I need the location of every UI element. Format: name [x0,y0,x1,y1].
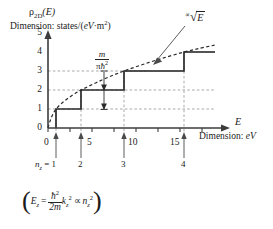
formula-rhs-subscript: z [87,201,90,208]
subband-label-2: 2 [78,160,83,169]
step-height-label: m πħ2 [95,50,109,72]
y-tick-label-0: 0 [32,123,42,133]
step-height-numerator: m [95,50,109,60]
y-axis-dimension-unit: eV [84,21,94,31]
x-axis-dimension-label: Dimension: eV [199,132,256,142]
x-tick-label-5: 5 [87,138,92,148]
formula-lhs-subscript: z [36,201,39,208]
y-tick-label-2: 2 [32,85,42,95]
formula-k-subscript: z [66,201,69,208]
subband-indicator-arrows [53,132,186,158]
subband-n-subscript: z [40,165,42,171]
x-axis-dimension-prefix: Dimension: [199,131,246,141]
subband-label-3: 3 [121,160,126,169]
x-tick-label-10: 10 [128,138,138,148]
sqrt-envelope-curve [48,45,215,128]
x-tick-label-0: 0 [44,138,49,148]
formula-open-paren: ( [22,186,31,215]
figure-canvas: ρ2D(E) Dimension: states/(eV·m2) 5 4 3 2… [0,0,273,229]
sqrt-annotation-label: ∝√E [185,10,205,23]
y-axis-dimension-close: ) [107,21,110,31]
x-tick-label-15: 15 [170,138,180,148]
y-axis-title: ρ2D(E) [29,7,55,20]
formula-close-paren: ) [93,186,102,215]
y-tick-label-5: 5 [32,28,42,38]
y-axis-dimension-label: Dimension: states/(eV·m2) [10,20,111,32]
formula-propto: ∝ [74,196,81,206]
formula-hbar-exponent: 2 [56,189,59,196]
step-height-denominator: πħ2 [95,60,109,71]
sqrt-annotation-leader [153,26,185,65]
horizontal-gridlines [48,71,215,109]
y-tick-label-4: 4 [32,47,42,57]
x-axis-dimension-unit: eV [246,131,256,141]
step-tail-lines [124,52,215,71]
y-axis-rho-argument: (E) [42,6,55,17]
subband-energy-formula: (Ez = ħ2 2m kz2 ∝ nz2) [22,190,102,213]
formula-equals: = [41,196,46,206]
subband-label-1: nz = 1 [35,160,56,171]
vertical-droplines [56,52,184,133]
radical-argument: E [196,11,205,23]
subband-label-4: 4 [181,160,186,169]
y-axis-dimension-suffix: ·m [94,21,105,31]
step-height-hbar-exponent: 2 [105,60,108,66]
subband-n-equals-one: = 1 [44,159,56,169]
formula-k-exponent: 2 [69,194,72,201]
y-axis-dimension-prefix: Dimension: states/( [10,21,84,31]
y-tick-label-1: 1 [32,104,42,114]
y-axis [44,30,51,128]
formula-fraction-denominator: 2m [48,203,62,213]
y-tick-label-3: 3 [32,66,42,76]
x-axis-title: E [235,117,241,127]
